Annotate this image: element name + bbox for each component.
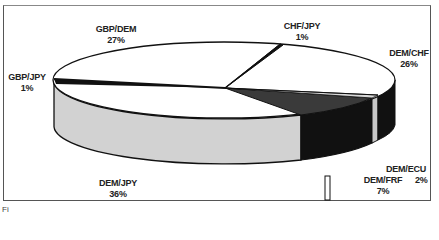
label-dem-chf: DEM/CHF26%	[382, 48, 436, 70]
slice-side-dem-ecu	[372, 95, 378, 143]
label-chf-jpy: CHF/JPY1%	[277, 21, 327, 43]
figure-caption: Fi	[2, 205, 9, 214]
label-dem-ecu-name: DEM/ECU	[380, 164, 432, 175]
label-dem-jpy: DEM/JPY36%	[90, 178, 146, 200]
label-gbp-dem: GBP/DEM27%	[86, 24, 146, 46]
label-dem-frf: DEM/FRF7%	[355, 175, 411, 197]
leader-marker	[325, 176, 330, 200]
label-dem-ecu-pct: 2%	[415, 175, 435, 186]
label-gbp-jpy: GBP/JPY1%	[4, 72, 50, 94]
